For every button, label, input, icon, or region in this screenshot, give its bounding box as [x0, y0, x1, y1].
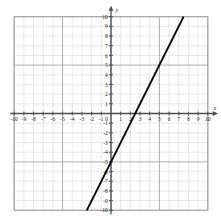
- y-tick-label: 9: [105, 23, 108, 29]
- y-tick-label: -5: [103, 159, 108, 165]
- x-tick-label: 3: [139, 116, 142, 122]
- y-tick-label: 7: [105, 43, 108, 49]
- y-tick-label: 10: [102, 14, 108, 20]
- y-tick-label: -10: [100, 207, 108, 213]
- x-tick-label: 8: [187, 116, 190, 122]
- x-tick-label: 4: [148, 116, 151, 122]
- y-tick-label: 4: [105, 72, 108, 78]
- y-tick-label: 3: [105, 82, 108, 88]
- y-tick-label: 1: [105, 101, 108, 107]
- y-tick-label: 8: [105, 33, 108, 39]
- x-axis-name: x: [212, 105, 216, 111]
- graph-canvas: -10-9-8-7-6-5-4-3-2-112345678910-10-9-8-…: [0, 0, 221, 219]
- y-tick-label: -3: [103, 140, 108, 146]
- x-tick-label: -8: [31, 116, 36, 122]
- x-tick-label: 10: [205, 116, 211, 122]
- x-tick-label: -4: [70, 116, 75, 122]
- x-tick-label: 7: [177, 116, 180, 122]
- x-tick-label: 5: [158, 116, 161, 122]
- x-tick-label: -2: [89, 116, 94, 122]
- x-tick-label: -9: [22, 116, 27, 122]
- y-tick-label: -4: [103, 149, 108, 155]
- x-tick-label: 6: [168, 116, 171, 122]
- y-tick-label: -2: [103, 130, 108, 136]
- y-tick-label: -9: [103, 198, 108, 204]
- x-tick-label: -3: [80, 116, 85, 122]
- origin-label: 0: [105, 116, 108, 122]
- coordinate-graph: -10-9-8-7-6-5-4-3-2-112345678910-10-9-8-…: [0, 0, 221, 219]
- y-tick-label: -8: [103, 188, 108, 194]
- x-tick-label: 1: [119, 116, 122, 122]
- x-tick-label: -7: [41, 116, 46, 122]
- y-tick-label: -7: [103, 178, 108, 184]
- x-tick-label: 9: [197, 116, 200, 122]
- x-tick-label: -10: [10, 116, 18, 122]
- x-tick-label: -5: [60, 116, 65, 122]
- y-axis-name: y: [115, 7, 119, 13]
- y-tick-label: 6: [105, 53, 108, 59]
- y-tick-label: 5: [105, 62, 108, 68]
- x-tick-label: -6: [51, 116, 56, 122]
- y-tick-label: 2: [105, 91, 108, 97]
